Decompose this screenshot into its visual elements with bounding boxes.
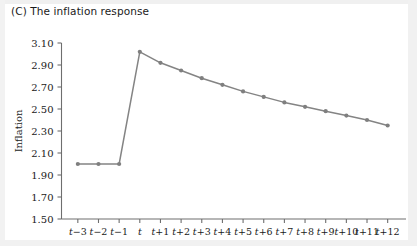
x-axis: t−3t−2t−1tt+1t+2t+3t+4t+5t+6t+7t+8t+9t+1… bbox=[62, 219, 407, 237]
data-point-marker bbox=[365, 118, 369, 122]
line-chart: 1.501.701.902.102.302.502.702.903.10 t−3… bbox=[0, 0, 417, 246]
y-tick-label: 2.70 bbox=[31, 82, 53, 93]
data-point-marker bbox=[344, 114, 348, 118]
y-tick-label: 2.10 bbox=[31, 148, 53, 159]
y-tick-label: 1.90 bbox=[31, 170, 53, 181]
figure-panel: (C) The inflation response 1.501.701.902… bbox=[0, 0, 417, 246]
x-tick-label: t+5 bbox=[234, 226, 252, 237]
data-point-marker bbox=[241, 89, 245, 93]
x-tick-label: t+1 bbox=[152, 226, 170, 237]
y-tick-label: 2.30 bbox=[31, 126, 53, 137]
data-point-marker bbox=[179, 68, 183, 72]
data-point-marker bbox=[76, 162, 80, 166]
x-tick-label: t+9 bbox=[317, 226, 335, 237]
data-point-marker bbox=[220, 83, 224, 87]
x-tick-label: t+2 bbox=[172, 226, 190, 237]
data-point-marker bbox=[158, 61, 162, 65]
x-tick-label: t+3 bbox=[193, 226, 211, 237]
x-tick-label: t bbox=[138, 226, 142, 237]
inflation-series bbox=[76, 50, 390, 166]
series-line bbox=[78, 52, 388, 164]
data-point-marker bbox=[117, 162, 121, 166]
x-tick-label: t−3 bbox=[69, 226, 87, 237]
y-tick-label: 3.10 bbox=[31, 38, 53, 49]
data-point-marker bbox=[303, 105, 307, 109]
x-tick-label: t+12 bbox=[376, 226, 400, 237]
x-tick-label: t+4 bbox=[214, 226, 232, 237]
y-axis: 1.501.701.902.102.302.502.702.903.10 bbox=[31, 38, 61, 225]
data-point-marker bbox=[96, 162, 100, 166]
x-tick-label: t+8 bbox=[296, 226, 314, 237]
data-point-marker bbox=[262, 95, 266, 99]
x-tick-label: t+7 bbox=[275, 226, 293, 237]
y-axis-label: Inflation bbox=[13, 109, 24, 152]
y-tick-label: 2.90 bbox=[31, 60, 53, 71]
x-tick-label: t−1 bbox=[110, 226, 128, 237]
y-axis-title: Inflation bbox=[13, 109, 24, 152]
y-tick-label: 2.50 bbox=[31, 104, 53, 115]
y-tick-label: 1.50 bbox=[31, 214, 53, 225]
data-point-marker bbox=[200, 76, 204, 80]
x-tick-label: t+6 bbox=[255, 226, 273, 237]
data-point-marker bbox=[324, 109, 328, 113]
x-tick-label: t−2 bbox=[90, 226, 108, 237]
data-point-marker bbox=[386, 123, 390, 127]
data-point-marker bbox=[282, 100, 286, 104]
y-tick-label: 1.70 bbox=[31, 192, 53, 203]
data-point-marker bbox=[138, 50, 142, 54]
